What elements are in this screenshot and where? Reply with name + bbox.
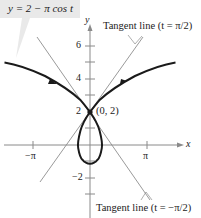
y-tick-2: 2 — [76, 105, 81, 116]
y-tick-4: 4 — [76, 72, 81, 83]
point-0-2 — [87, 109, 92, 114]
x-axis-arrow-icon — [177, 143, 184, 148]
tangent-lower-label: Tangent line (t = −π/2) — [96, 202, 191, 213]
x-tick-neg-pi: −π — [25, 150, 36, 161]
point-label: (0, 2) — [96, 105, 119, 116]
tangent-upper-label: Tangent line (t = π/2) — [103, 20, 192, 31]
callout-pointer — [16, 18, 30, 58]
x-tick-pi: π — [143, 150, 148, 161]
lower-label-leader — [141, 192, 152, 200]
upper-label-leader — [128, 35, 142, 44]
y-axis-label: y — [85, 14, 89, 25]
y-axis-arrow-icon — [88, 24, 93, 31]
y-tick-6: 6 — [76, 39, 81, 50]
y-tick-neg-2: −2 — [72, 171, 83, 182]
x-axis-label: x — [186, 138, 190, 149]
